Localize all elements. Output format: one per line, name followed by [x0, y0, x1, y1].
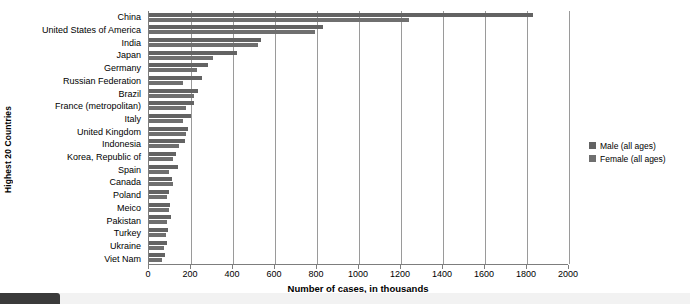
- bar-group: [149, 36, 568, 49]
- legend-swatch-icon: [589, 155, 596, 162]
- category-label: Russian Federation: [18, 75, 145, 88]
- category-label: Spain: [18, 163, 145, 176]
- bar-female: [149, 30, 315, 34]
- bar-female: [149, 106, 186, 110]
- bar-female: [149, 246, 164, 250]
- bar-female: [149, 195, 167, 199]
- bar-male: [149, 127, 188, 131]
- bar-female: [149, 43, 258, 47]
- bar-male: [149, 38, 261, 42]
- x-axis-tick-label: 1200: [390, 269, 410, 280]
- bar-male: [149, 228, 168, 232]
- gridline: [569, 11, 570, 264]
- plot-area: [148, 11, 568, 265]
- bar-group: [149, 74, 568, 87]
- bar-group: [149, 100, 568, 113]
- category-label: Brazil: [18, 87, 145, 100]
- x-axis-tick-label: 600: [266, 269, 281, 280]
- bar-group: [149, 49, 568, 62]
- category-label: Germany: [18, 62, 145, 75]
- x-axis-tick-label: 1800: [516, 269, 536, 280]
- x-axis-tick-label: 400: [224, 269, 239, 280]
- bar-female: [149, 258, 162, 262]
- category-label: Turkey: [18, 227, 145, 240]
- category-label: France (metropolitan): [18, 100, 145, 113]
- category-label: Korea, Republic of: [18, 151, 145, 164]
- category-label: Meico: [18, 202, 145, 215]
- bar-group: [149, 11, 568, 24]
- x-axis-tick-labels: 0200400600800100012001400160018002000: [148, 269, 568, 281]
- bar-group: [149, 138, 568, 151]
- bar-group: [149, 150, 568, 163]
- bar-male: [149, 76, 202, 80]
- category-label: China: [18, 11, 145, 24]
- bar-male: [149, 25, 323, 29]
- page-bottom-strip: [0, 293, 690, 304]
- bar-group: [149, 125, 568, 138]
- bar-male: [149, 241, 167, 245]
- category-label: United Kingdom: [18, 125, 145, 138]
- bar-female: [149, 132, 186, 136]
- x-axis-tick-label: 1000: [348, 269, 368, 280]
- bar-female: [149, 18, 409, 22]
- bar-female: [149, 208, 169, 212]
- bar-male: [149, 114, 191, 118]
- category-label: United States of America: [18, 24, 145, 37]
- bar-female: [149, 182, 173, 186]
- bar-male: [149, 89, 198, 93]
- bar-female: [149, 94, 194, 98]
- bar-male: [149, 139, 185, 143]
- bar-female: [149, 68, 197, 72]
- bar-group: [149, 201, 568, 214]
- bar-male: [149, 165, 178, 169]
- page-bottom-tab: [0, 293, 60, 304]
- bar-male: [149, 152, 176, 156]
- bar-group: [149, 188, 568, 201]
- bar-female: [149, 233, 166, 237]
- bar-male: [149, 13, 533, 17]
- bar-female: [149, 170, 169, 174]
- x-axis-tick-label: 2000: [558, 269, 578, 280]
- bar-female: [149, 157, 173, 161]
- bar-female: [149, 119, 183, 123]
- category-label: India: [18, 36, 145, 49]
- category-label: Viet Nam: [18, 252, 145, 265]
- category-label: Japan: [18, 49, 145, 62]
- y-axis-title: Highest 20 Countries: [0, 94, 16, 204]
- bar-male: [149, 253, 165, 257]
- bar-group: [149, 112, 568, 125]
- bar-female: [149, 56, 213, 60]
- chart-legend: Male (all ages)Female (all ages): [589, 139, 689, 165]
- legend-item[interactable]: Female (all ages): [589, 152, 689, 165]
- bar-male: [149, 51, 237, 55]
- bar-female: [149, 144, 179, 148]
- bar-male: [149, 177, 172, 181]
- bar-group: [149, 226, 568, 239]
- legend-label: Female (all ages): [600, 154, 666, 164]
- category-label: Pakistan: [18, 214, 145, 227]
- category-label: Ukraine: [18, 240, 145, 253]
- category-label: Italy: [18, 113, 145, 126]
- bar-male: [149, 203, 170, 207]
- bar-group: [149, 214, 568, 227]
- x-axis-tick-label: 800: [308, 269, 323, 280]
- category-label: Poland: [18, 189, 145, 202]
- category-axis-labels: ChinaUnited States of AmericaIndiaJapanG…: [18, 11, 145, 265]
- bar-chart-figure: Highest 20 Countries ChinaUnited States …: [0, 0, 690, 304]
- legend-label: Male (all ages): [600, 141, 656, 151]
- x-axis-tick-label: 1600: [474, 269, 494, 280]
- bar-male: [149, 63, 208, 67]
- bar-male: [149, 190, 169, 194]
- bar-series-container: [149, 11, 568, 264]
- category-label: Canada: [18, 176, 145, 189]
- bar-male: [149, 215, 171, 219]
- x-axis-tick-label: 1400: [432, 269, 452, 280]
- legend-swatch-icon: [589, 142, 596, 149]
- legend-item[interactable]: Male (all ages): [589, 139, 689, 152]
- bar-group: [149, 87, 568, 100]
- bar-group: [149, 163, 568, 176]
- bar-group: [149, 24, 568, 37]
- bar-group: [149, 239, 568, 252]
- bar-group: [149, 251, 568, 264]
- bar-male: [149, 101, 194, 105]
